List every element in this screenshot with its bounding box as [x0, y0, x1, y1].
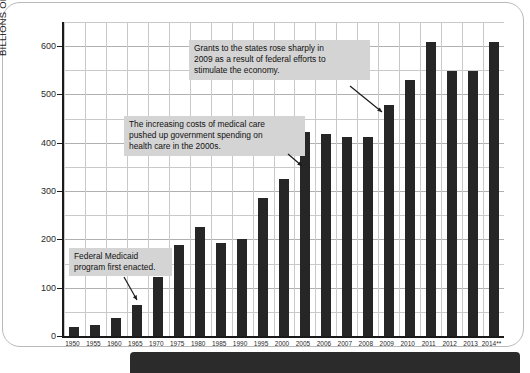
- bar-chart: BILLIONS OF CONSTANT (FY 2005) DOLLARS 0…: [0, 0, 530, 373]
- bar: [342, 137, 352, 336]
- bar: [195, 227, 205, 336]
- y-axis-tick-mark: [57, 191, 62, 192]
- bar: [153, 277, 163, 336]
- bar: [447, 71, 457, 336]
- gridline-vertical: [378, 22, 379, 336]
- bar: [468, 71, 478, 336]
- gridline-vertical: [462, 22, 463, 336]
- gridline-vertical: [127, 22, 128, 336]
- gridline-vertical: [483, 22, 484, 336]
- bar: [237, 239, 247, 336]
- y-axis-tick-label: 100: [28, 283, 56, 293]
- gridline-horizontal: [64, 167, 504, 168]
- gridline-vertical: [106, 22, 107, 336]
- bar: [216, 243, 226, 336]
- bar: [174, 245, 184, 336]
- bar: [111, 318, 121, 336]
- gridline-vertical: [441, 22, 442, 336]
- bar: [321, 134, 331, 336]
- bar: [132, 305, 142, 336]
- y-axis-tick-label: 400: [28, 138, 56, 148]
- chart-annotation: The increasing costs of medical care pus…: [124, 116, 305, 156]
- chart-annotation: Federal Medicaid program first enacted.: [69, 248, 172, 276]
- y-axis-tick-mark: [57, 239, 62, 240]
- bar: [90, 325, 100, 336]
- gridline-vertical: [420, 22, 421, 336]
- bar: [258, 198, 268, 336]
- y-axis-tick-label: 200: [28, 234, 56, 244]
- y-axis-tick-label: 500: [28, 89, 56, 99]
- gridline-vertical: [85, 22, 86, 336]
- bar: [426, 42, 436, 336]
- y-axis-tick-label: 0: [28, 331, 56, 341]
- y-axis-tick-mark: [57, 46, 62, 47]
- page-container: BILLIONS OF CONSTANT (FY 2005) DOLLARS 0…: [0, 0, 530, 373]
- bar: [405, 80, 415, 336]
- x-axis-tick-label: 2014**: [478, 340, 506, 347]
- bar: [363, 137, 373, 336]
- gridline-vertical: [399, 22, 400, 336]
- bar: [279, 179, 289, 336]
- gridline-vertical: [169, 22, 170, 336]
- y-axis-title: BILLIONS OF CONSTANT (FY 2005) DOLLARS: [0, 0, 8, 60]
- chart-annotation: Grants to the states rose sharply in 200…: [189, 40, 370, 80]
- y-axis-tick-mark: [57, 288, 62, 289]
- gridline-horizontal: [64, 94, 504, 95]
- y-axis-tick-mark: [57, 143, 62, 144]
- bar: [384, 105, 394, 336]
- gridline-vertical: [148, 22, 149, 336]
- y-axis-tick-label: 300: [28, 186, 56, 196]
- gridline-vertical: [64, 22, 65, 336]
- bar: [489, 42, 499, 336]
- y-axis-tick-label: 600: [28, 41, 56, 51]
- gridline-horizontal: [64, 22, 504, 23]
- bar: [69, 327, 79, 336]
- y-axis-tick-mark: [57, 336, 62, 337]
- bar: [300, 132, 310, 336]
- y-axis-tick-mark: [57, 94, 62, 95]
